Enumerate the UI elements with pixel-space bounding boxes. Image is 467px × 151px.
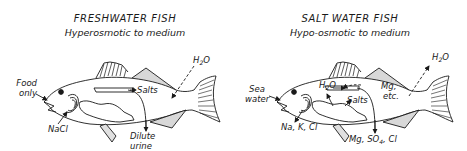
saltwater-mg-label: Mg, etc. [381, 81, 399, 101]
freshwater-food-label: Food only [14, 78, 37, 98]
saltwater-urine-label: Mg, SO4, Cl [349, 134, 397, 145]
freshwater-fish-drawing [0, 0, 234, 151]
saltwater-fish-drawing [233, 0, 467, 151]
freshwater-h2o-label: H2O [193, 55, 210, 66]
saltwater-seawater-label: Sea water [245, 84, 269, 104]
freshwater-urine-label: Dilute urine [130, 131, 155, 151]
freshwater-nacl-label: NaCl [48, 124, 68, 134]
saltwater-h2o-out-label: H2O [432, 52, 449, 63]
freshwater-panel: FRESHWATER FISH Hyperosmotic to medium [0, 0, 234, 151]
saltwater-panel: SALT WATER FISH Hypo-osmotic to medium [233, 0, 467, 151]
saltwater-nakcl-label: Na, K, Cl [281, 122, 317, 132]
saltwater-gut-h2o-label: H2O [319, 80, 336, 91]
freshwater-salts-label: Salts [137, 85, 158, 95]
saltwater-salts-label: Salts [347, 95, 368, 105]
